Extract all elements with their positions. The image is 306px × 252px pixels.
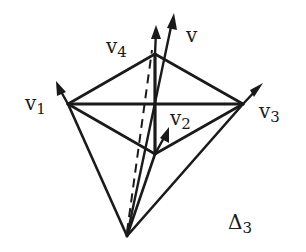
- vector-v-arrowhead: [167, 13, 177, 30]
- vector-v1-arrowhead: [56, 81, 66, 96]
- vector-v-shaft: [127, 22, 172, 236]
- edge-v1-v2: [68, 104, 155, 154]
- edge-apex-v1: [68, 104, 127, 236]
- label-v: v: [185, 23, 198, 47]
- diagram-title: Δ3: [228, 210, 252, 237]
- vector-v4: [151, 25, 161, 54]
- edge-v1-v4: [68, 54, 155, 104]
- label-v3: v3: [258, 99, 280, 126]
- vector-v1: [56, 81, 68, 104]
- label-v1: v1: [24, 91, 46, 118]
- vector-v4-arrowhead: [151, 25, 161, 39]
- edge-v4-v3: [155, 54, 243, 104]
- label-v2: v2: [169, 106, 191, 133]
- diagram-canvas: v v4 v1 v3 v2 Δ3: [0, 0, 306, 252]
- polytope-edges: [68, 54, 243, 236]
- label-v4: v4: [105, 34, 127, 61]
